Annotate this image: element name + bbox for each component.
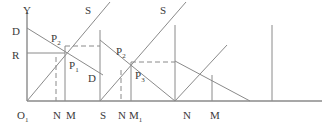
- supply-curve-2: [100, 2, 186, 101]
- origin-label-O1: O1: [17, 110, 28, 124]
- point-label-P2-mid: P2: [116, 46, 126, 60]
- supply-curve-3: [175, 45, 227, 101]
- quantity-M1: M1: [129, 110, 142, 124]
- quantity-M-1: M: [66, 110, 76, 121]
- quantity-N-3: N: [183, 110, 191, 121]
- figure-canvas: YDRO1SSDP2P1P2P3NMSNM1NM: [0, 0, 325, 130]
- point-label-P3: P3: [135, 70, 145, 84]
- supply-curve-1: [27, 2, 110, 101]
- point-label-P1-subscript: 1: [75, 66, 79, 74]
- quantity-N-2: N: [118, 110, 126, 121]
- quantity-M-3: M: [210, 110, 220, 121]
- point-label-P2-left: P2: [51, 33, 61, 47]
- point-label-P1: P1: [69, 60, 79, 74]
- supply-label-S1: S: [85, 5, 91, 16]
- supply-demand-diagram: [0, 0, 325, 130]
- segment-start-S: S: [100, 110, 106, 121]
- demand-label-D2: D: [88, 73, 96, 84]
- origin-label-O1-subscript: 1: [25, 116, 29, 124]
- point-label-P2-left-subscript: 2: [57, 39, 61, 47]
- supply-label-S2: S: [160, 5, 166, 16]
- point-label-P2-mid-subscript: 2: [122, 52, 126, 60]
- point-label-P3-subscript: 3: [141, 76, 145, 84]
- demand-intercept-D: D: [12, 26, 20, 37]
- quantity-N-1: N: [53, 110, 61, 121]
- y-axis-label: Y: [23, 5, 31, 16]
- quantity-M1-subscript: 1: [139, 116, 143, 124]
- price-level-R: R: [12, 50, 19, 61]
